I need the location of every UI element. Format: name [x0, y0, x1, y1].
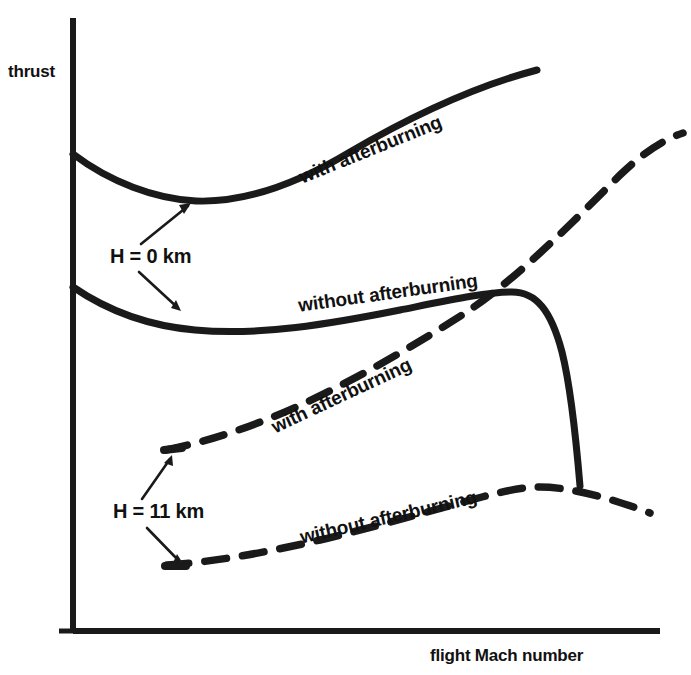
plot-canvas	[0, 0, 691, 675]
curve-without-afterburning-h0	[73, 287, 580, 486]
leader-h11-to-no-afterburning	[147, 528, 180, 562]
cap-h11-afterburning-start	[164, 448, 182, 450]
y-axis-title: thrust	[8, 62, 55, 82]
annotation-altitude-11km: H = 11 km	[113, 500, 204, 523]
leader-h0-to-afterburning	[141, 206, 188, 244]
annotation-sea-level: H = 0 km	[110, 245, 191, 268]
leader-h0-to-no-afterburning	[139, 272, 178, 308]
thrust-vs-mach-figure: thrust flight Mach number with afterburn…	[0, 0, 691, 675]
leader-h11-to-afterburning	[142, 459, 170, 499]
x-axis-title: flight Mach number	[430, 646, 583, 666]
curve-without-afterburning-h11	[167, 487, 650, 565]
